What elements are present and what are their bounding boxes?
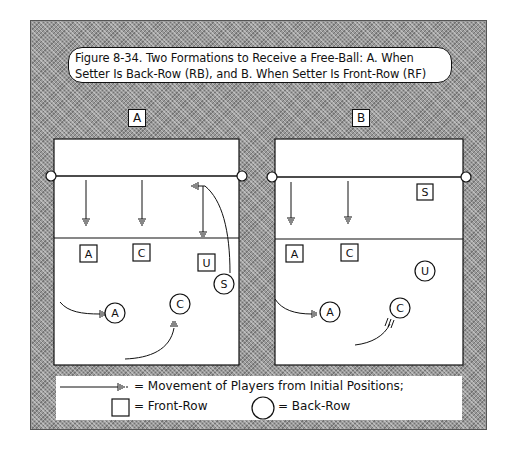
player-label: U xyxy=(421,265,429,278)
player-label: C xyxy=(396,302,404,315)
back-row-circle-icon xyxy=(252,397,274,419)
player-label: S xyxy=(422,186,429,199)
player-label: C xyxy=(138,247,146,260)
player-label: C xyxy=(176,298,184,311)
legend: = Movement of Players from Initial Posit… xyxy=(56,376,462,420)
net-post-icon xyxy=(237,171,247,181)
player-label: C xyxy=(346,247,354,260)
player-label: S xyxy=(221,278,228,291)
court-a: A C U A C S xyxy=(46,139,247,365)
net-post-icon xyxy=(267,172,277,182)
legend-movement: = Movement of Players from Initial Posit… xyxy=(134,379,404,393)
player-label: A xyxy=(326,306,334,319)
player-label: A xyxy=(111,307,119,320)
front-row-square-icon xyxy=(112,399,129,416)
legend-back-row: = Back-Row xyxy=(278,399,350,413)
movement-arrow-icon xyxy=(60,383,128,391)
player-label: U xyxy=(202,257,210,270)
court-b: A C S U A C xyxy=(267,139,471,365)
net-post-icon xyxy=(461,172,471,182)
net-post-icon xyxy=(46,171,56,181)
player-label: A xyxy=(291,248,299,261)
legend-front-row: = Front-Row xyxy=(134,399,208,413)
player-label: A xyxy=(85,248,93,261)
